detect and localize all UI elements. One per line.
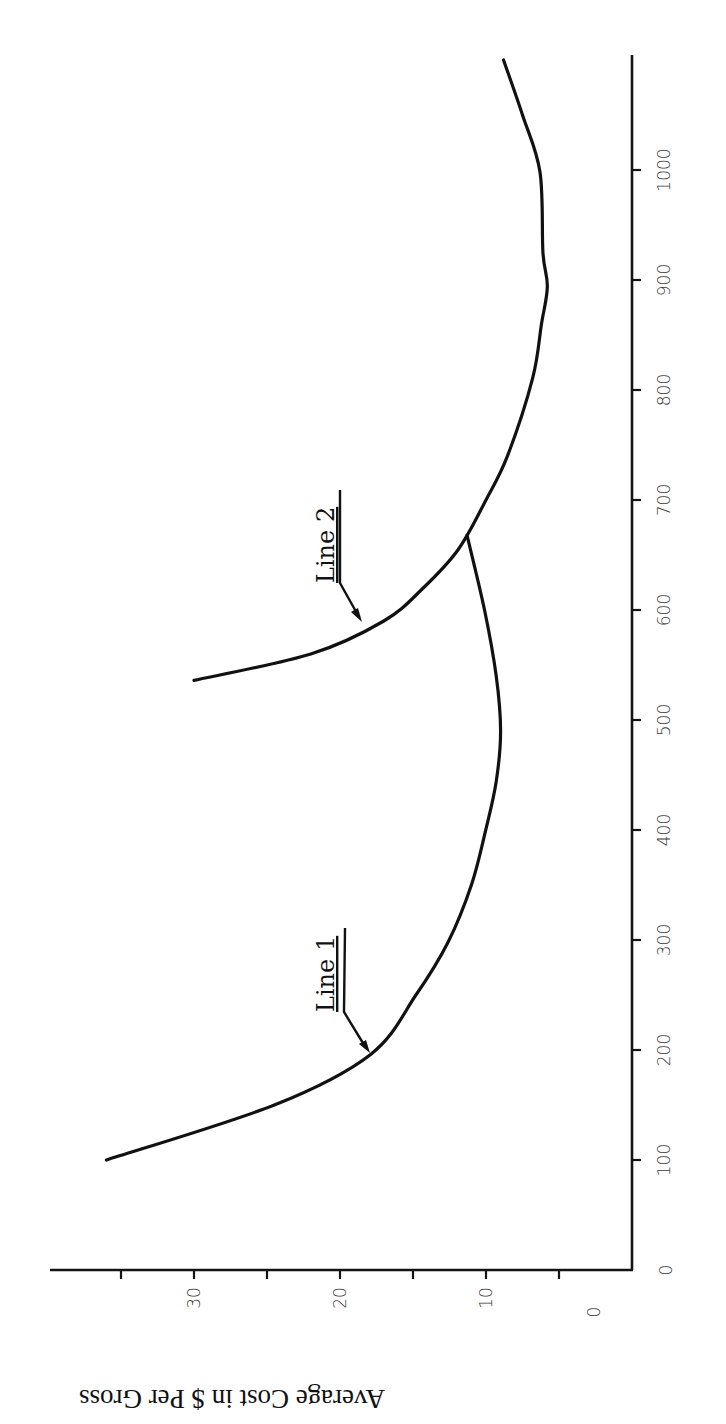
arrowhead-icon <box>359 1040 370 1053</box>
x-tick-label: 300 <box>654 924 674 956</box>
x-tick-label: 900 <box>654 264 674 296</box>
x-tick-label: 600 <box>654 594 674 626</box>
line-2-leader <box>340 490 359 617</box>
y-tick-label: 10 <box>476 1287 496 1309</box>
line-1-curve <box>106 535 500 1160</box>
y-tick-label: 30 <box>184 1287 204 1309</box>
line-2-curve <box>194 60 547 680</box>
line-1-label: Line 1 <box>312 936 340 1012</box>
arrowhead-icon <box>351 608 362 622</box>
line-1-leader <box>344 928 366 1048</box>
line-2-annotation: Line 2 <box>312 490 362 622</box>
x-tick-label: 0 <box>656 1265 676 1276</box>
line-2-label: Line 2 <box>312 507 340 583</box>
x-tick-label: 400 <box>654 814 674 846</box>
x-tick-label: 100 <box>654 1144 674 1176</box>
cost-chart: 01002003004005006007008009001000 0102030… <box>0 0 726 1424</box>
x-tick-label: 500 <box>654 704 674 736</box>
y-tick-label: 20 <box>330 1287 350 1309</box>
x-tick-label: 200 <box>654 1034 674 1066</box>
x-tick-label: 1000 <box>654 148 674 191</box>
y-axis-ticks: 0102030 <box>121 1270 604 1317</box>
y-axis-title: Average Cost in $ Per Gross <box>79 1384 385 1414</box>
y-tick-label: 0 <box>584 1307 604 1318</box>
x-tick-label: 700 <box>654 484 674 516</box>
line-1-annotation: Line 1 <box>312 928 370 1053</box>
x-tick-label: 800 <box>654 374 674 406</box>
x-axis-ticks: 01002003004005006007008009001000 <box>632 148 676 1275</box>
